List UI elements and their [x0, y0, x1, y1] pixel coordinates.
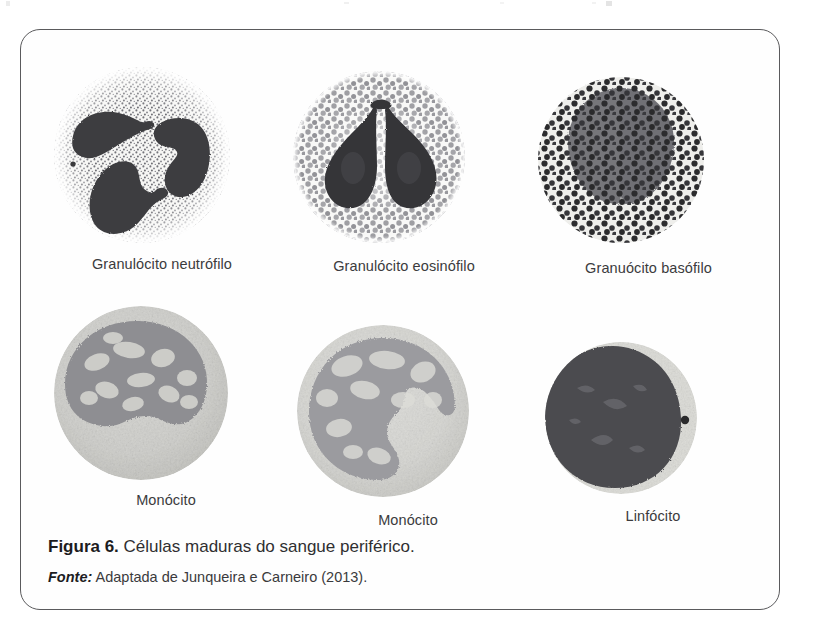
monocito-2-illustration: [283, 316, 533, 506]
source-text: Adaptada de Junqueira e Carneiro (2013).: [96, 569, 368, 585]
cell-figure-linfocito: Linfócito: [533, 336, 773, 524]
cell-figure-monocito-1: Monócito: [41, 298, 291, 508]
granulocito-basofilo-illustration: [526, 70, 771, 250]
monocito-1-illustration: [41, 298, 291, 488]
cell-figure-monocito-2: Monócito: [283, 316, 533, 528]
cell-figure-granulocito-basofilo: Granuócito basófilo: [526, 70, 771, 276]
caption-main-line: Figura 6. Células maduras do sangue peri…: [48, 535, 748, 560]
linfocito-illustration: [533, 336, 773, 502]
granulocito-eosinofilo-illustration: [279, 64, 529, 250]
cell-label-monocito-1: Monócito: [41, 492, 291, 508]
cell-label-granulocito-eosinofilo: Granulócito eosinófilo: [279, 258, 529, 274]
cell-label-granulocito-neutrofilo: Granulócito neutrófilo: [37, 256, 287, 272]
cytoplasmic-granule: [681, 416, 689, 424]
cell-illustration-grid: Granulócito neutrófilo: [21, 36, 781, 526]
figure-box: Granulócito neutrófilo: [20, 29, 780, 610]
cell-figure-granulocito-neutrofilo: Granulócito neutrófilo: [37, 60, 287, 272]
cell-label-granulocito-basofilo: Granuócito basófilo: [526, 260, 771, 276]
cell-figure-granulocito-eosinofilo: Granulócito eosinófilo: [279, 64, 529, 274]
cell-label-linfocito: Linfócito: [533, 508, 773, 524]
figure-caption: Figura 6. Células maduras do sangue peri…: [48, 535, 748, 587]
granulocito-neutrofilo-illustration: [37, 60, 287, 250]
scan-noise-strip: [0, 0, 821, 14]
figure-title: Células maduras do sangue periférico.: [124, 537, 415, 556]
caption-source-line: Fonte: Adaptada de Junqueira e Carneiro …: [48, 567, 748, 587]
source-label: Fonte:: [48, 569, 92, 585]
figure-number: Figura 6.: [48, 537, 119, 556]
cell-label-monocito-2: Monócito: [283, 512, 533, 528]
